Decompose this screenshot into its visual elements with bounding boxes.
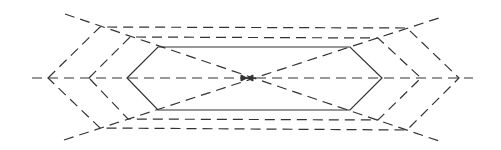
hexagon-web-diagram xyxy=(0,0,501,150)
